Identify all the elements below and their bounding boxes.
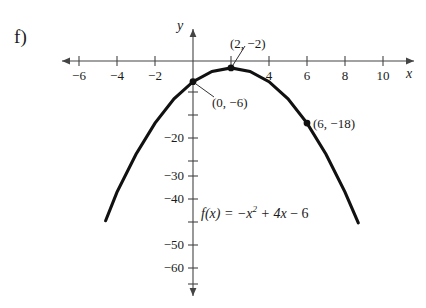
equation-lhs: f(x) = [201, 206, 237, 221]
y-tick-label--50: −50 [148, 237, 184, 253]
parabola-curve [106, 68, 359, 223]
y-axis-label: y [177, 18, 183, 34]
x-tick-label--4: −4 [110, 68, 124, 84]
x-tick-label-10: 10 [377, 68, 390, 84]
equation-term3: − 6 [287, 206, 309, 221]
vertex-label: (2, −2) [230, 36, 266, 52]
x-tick-label--2: −2 [148, 68, 162, 84]
x-axis [62, 58, 414, 65]
y-axis [190, 29, 197, 296]
graph-plot [0, 0, 426, 308]
x-tick-label--6: −6 [72, 68, 86, 84]
y-tick-label--40: −40 [148, 191, 184, 207]
x-tick-label-4: 4 [266, 68, 273, 84]
x-axis-label: x [406, 66, 412, 82]
x-tick-label-6: 6 [304, 68, 311, 84]
y-tick-label--20: −20 [148, 130, 184, 146]
equation-term1: −x [237, 206, 253, 221]
point-marker-vertex [228, 65, 235, 72]
y-tick-label--60: −60 [148, 260, 184, 276]
y-intercept-label: (0, −6) [212, 95, 248, 111]
equation-term2: + 4x [257, 206, 287, 221]
point-marker-6 [304, 120, 311, 127]
point-marker-y-intercept [190, 78, 197, 85]
point-6-label: (6, −18) [313, 116, 355, 132]
figure-canvas: f) [0, 0, 426, 308]
function-equation: f(x) = −x2 + 4x − 6 [201, 204, 309, 222]
x-tick-label-8: 8 [342, 68, 349, 84]
y-tick-label--30: −30 [148, 168, 184, 184]
